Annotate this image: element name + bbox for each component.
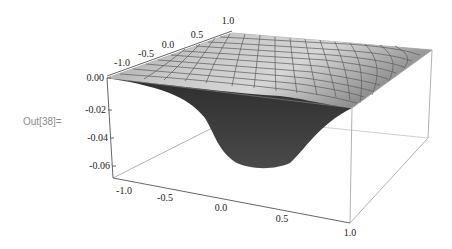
y-tick-label: -1.0 — [114, 57, 130, 68]
x-tick-label: 0.5 — [276, 213, 289, 224]
x-axis-front: -1.0 -0.5 0.0 0.5 1.0 — [113, 178, 356, 238]
z-tick-label: -0.04 — [87, 132, 108, 143]
z-axis: 0.00 -0.02 -0.04 -0.06 — [85, 72, 116, 178]
y-tick-label: 0.5 — [191, 29, 204, 40]
z-tick-label: 0.00 — [87, 72, 105, 83]
x-tick-label: 1.0 — [344, 227, 357, 238]
z-tick-label: -0.02 — [85, 104, 106, 115]
y-tick-label: 0.0 — [162, 39, 175, 50]
x-tick-label: -1.0 — [116, 185, 132, 196]
x-tick-label: 0.0 — [215, 202, 228, 213]
y-tick-label: 1.0 — [222, 15, 235, 26]
y-tick-label: -0.5 — [138, 48, 154, 59]
surface-plot-3d[interactable]: 0.00 -0.02 -0.04 -0.06 -1.0 -0.5 0.0 0.5… — [0, 0, 452, 249]
z-tick-label: -0.06 — [89, 160, 110, 171]
x-tick-label: -0.5 — [157, 192, 173, 203]
